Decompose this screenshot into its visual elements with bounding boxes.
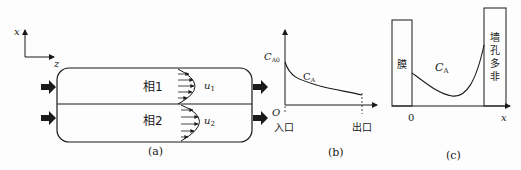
- x-axis-label-c: x: [501, 112, 507, 123]
- membrane-label: 膜: [397, 59, 407, 70]
- axis-label-x: x: [14, 26, 20, 37]
- panel-c: 膜 非 多 孔 墙 CA 0 x (c): [392, 8, 510, 162]
- curve-label-ca: CA: [303, 71, 316, 83]
- inlet-label: 入口: [274, 122, 294, 133]
- panel-a: x z 相1 相2 u1: [14, 26, 268, 158]
- caption-c: (c): [446, 149, 461, 162]
- svg-text:墙: 墙: [490, 31, 500, 43]
- phase-2-label: 相2: [143, 114, 163, 128]
- caption-b: (b): [328, 146, 344, 159]
- figure: x z 相1 相2 u1: [0, 0, 521, 170]
- origin-label: O: [272, 107, 280, 118]
- nonporous-wall-label: 非 多 孔 墙: [490, 31, 500, 82]
- y-label-ca0: CA0: [264, 51, 280, 63]
- outlet-arrow-icon: [253, 80, 268, 125]
- nonporous-wall: [484, 8, 506, 106]
- svg-text:非: 非: [490, 71, 500, 82]
- axis-label-z: z: [53, 58, 60, 69]
- velocity-label-u1: u1: [204, 80, 215, 93]
- concentration-curve: [285, 62, 362, 95]
- inlet-arrow-icon: [41, 80, 56, 125]
- panel-b: CA0 CA O 入口 出口 (b): [264, 30, 377, 159]
- outlet-label: 出口: [352, 121, 372, 133]
- coordinate-axes: x z: [14, 26, 60, 69]
- velocity-profile-2: [181, 105, 200, 141]
- origin-label-c: 0: [408, 112, 414, 123]
- svg-text:孔: 孔: [490, 45, 500, 56]
- velocity-profile-1: [178, 69, 195, 104]
- svg-text:多: 多: [490, 57, 500, 69]
- caption-a: (a): [148, 145, 163, 158]
- velocity-label-u2: u2: [204, 115, 215, 128]
- phase-1-label: 相1: [143, 80, 163, 94]
- curve-label-ca-c: CA: [435, 61, 449, 75]
